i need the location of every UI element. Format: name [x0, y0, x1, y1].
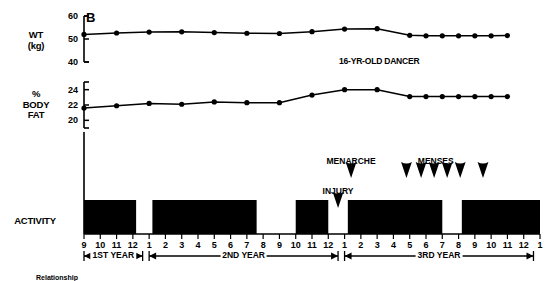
x-tick-label: 9 — [81, 240, 86, 250]
chart-plot-area — [0, 0, 552, 281]
x-tick-label: 5 — [407, 240, 412, 250]
annotation-injury: INJURY — [323, 186, 354, 196]
annotation-menses: MENSES — [418, 156, 454, 166]
x-tick-label: 6 — [423, 240, 428, 250]
x-tick-label: 6 — [228, 240, 233, 250]
y-tick-label: 24 — [56, 85, 78, 95]
x-tick-label: 11 — [112, 240, 122, 250]
x-tick-label: 10 — [95, 240, 105, 250]
x-tick-label: 1 — [147, 240, 152, 250]
x-tick-label: 1 — [537, 240, 542, 250]
x-tick-label: 11 — [307, 240, 317, 250]
x-tick-label: 10 — [486, 240, 496, 250]
y-tick-label: 22 — [56, 100, 78, 110]
x-tick-label: 12 — [519, 240, 529, 250]
year-bracket-label: 3RD YEAR — [416, 250, 463, 260]
y-tick-label: 60 — [56, 11, 78, 21]
x-tick-label: 9 — [472, 240, 477, 250]
x-tick-label: 5 — [212, 240, 217, 250]
annotation-menarche: MENARCHE — [327, 156, 376, 166]
x-tick-label: 8 — [261, 240, 266, 250]
x-tick-label: 4 — [195, 240, 200, 250]
x-tick-label: 12 — [128, 240, 138, 250]
x-tick-label: 2 — [163, 240, 168, 250]
x-tick-label: 2 — [358, 240, 363, 250]
y-tick-label: 20 — [56, 115, 78, 125]
figure-panel-b: WT (kg) % BODY FAT ACTIVITY B 16-YR-OLD … — [0, 0, 552, 281]
x-tick-label: 3 — [179, 240, 184, 250]
x-tick-label: 3 — [375, 240, 380, 250]
figure-caption: Relationship — [36, 274, 78, 281]
x-tick-label: 11 — [503, 240, 513, 250]
year-bracket-label: 1ST YEAR — [91, 250, 136, 260]
x-tick-label: 9 — [277, 240, 282, 250]
x-tick-label: 1 — [342, 240, 347, 250]
x-tick-label: 12 — [323, 240, 333, 250]
y-tick-label: 50 — [56, 34, 78, 44]
year-bracket-label: 2ND YEAR — [220, 250, 267, 260]
x-tick-label: 8 — [456, 240, 461, 250]
x-tick-label: 10 — [291, 240, 301, 250]
x-tick-label: 7 — [440, 240, 445, 250]
y-tick-label: 40 — [56, 57, 78, 67]
x-tick-label: 7 — [244, 240, 249, 250]
x-tick-label: 4 — [391, 240, 396, 250]
